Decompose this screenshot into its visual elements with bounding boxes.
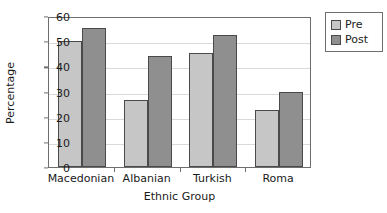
legend: Pre Post: [325, 12, 383, 52]
x-tick-mark: [180, 168, 181, 172]
bar-pre-roma[interactable]: [255, 110, 279, 167]
y-tick-mark: [44, 67, 48, 68]
x-axis-title: Ethnic Group: [48, 190, 311, 203]
legend-swatch-post: [331, 35, 341, 45]
x-tick-label: Turkish: [193, 172, 232, 185]
y-tick-mark: [44, 92, 48, 93]
legend-label-post: Post: [345, 34, 368, 45]
y-tick-label: 20: [30, 111, 70, 124]
bar-post-albanian[interactable]: [148, 56, 172, 167]
legend-item-pre[interactable]: Pre: [331, 17, 378, 32]
legend-label-pre: Pre: [345, 19, 363, 30]
x-tick-label: Macedonian: [48, 172, 115, 185]
bar-post-turkish[interactable]: [213, 35, 237, 167]
y-tick-label: 50: [30, 36, 70, 49]
y-tick-label: 30: [30, 86, 70, 99]
bar-pre-turkish[interactable]: [189, 53, 213, 167]
x-tick-label: Albanian: [123, 172, 171, 185]
y-tick-mark: [44, 16, 48, 17]
y-tick-mark: [44, 42, 48, 43]
bar-post-roma[interactable]: [279, 92, 303, 168]
bar-pre-albanian[interactable]: [124, 100, 148, 167]
bar-post-macedonian[interactable]: [82, 28, 106, 167]
y-tick-label: 40: [30, 61, 70, 74]
x-tick-label: Roma: [262, 172, 293, 185]
plot-area: [48, 17, 311, 168]
y-tick-mark: [44, 117, 48, 118]
y-tick-mark: [44, 167, 48, 168]
y-axis-title-label: Percentage: [4, 62, 17, 124]
legend-item-post[interactable]: Post: [331, 32, 378, 47]
y-tick-label: 60: [30, 11, 70, 24]
y-tick-label: 10: [30, 136, 70, 149]
y-axis-title: Percentage: [2, 18, 18, 168]
legend-swatch-pre: [331, 20, 341, 30]
y-tick-mark: [44, 142, 48, 143]
x-tick-mark: [114, 168, 115, 172]
x-tick-mark: [245, 168, 246, 172]
bar-chart: Percentage 0102030405060MacedonianAlbani…: [0, 0, 387, 213]
